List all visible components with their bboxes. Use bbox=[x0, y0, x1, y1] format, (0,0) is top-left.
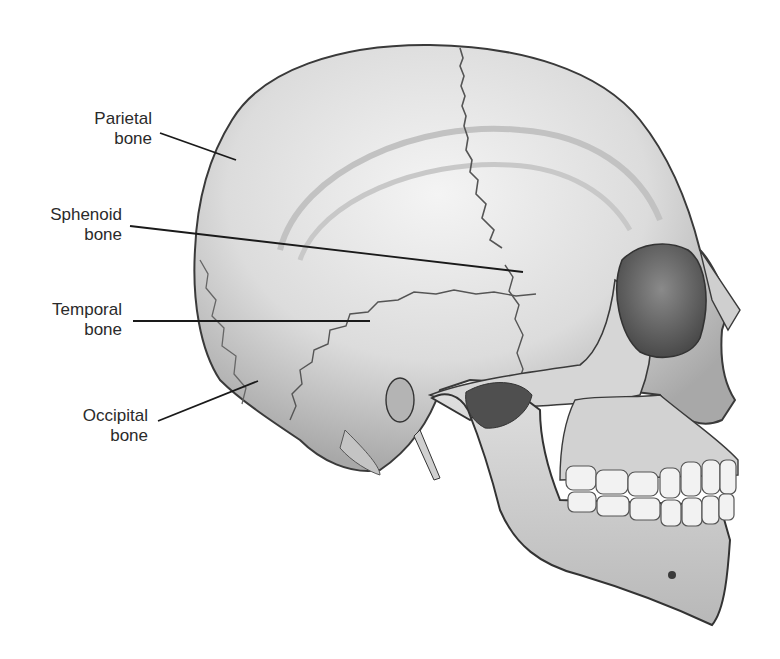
upper-tooth bbox=[720, 460, 736, 494]
label-line-2: bone bbox=[60, 129, 152, 149]
label-line-1: Temporal bbox=[26, 300, 122, 320]
label-occipital-bone: Occipital bone bbox=[52, 406, 148, 446]
mental-foramen bbox=[668, 571, 676, 579]
upper-tooth bbox=[702, 460, 720, 494]
label-line-1: Sphenoid bbox=[26, 205, 122, 225]
upper-tooth bbox=[681, 462, 701, 496]
ear-canal bbox=[386, 378, 414, 422]
label-parietal-bone: Parietal bone bbox=[60, 109, 152, 149]
lower-tooth bbox=[702, 496, 719, 524]
upper-tooth bbox=[566, 466, 596, 490]
styloid-process bbox=[414, 430, 440, 480]
label-line-1: Occipital bbox=[52, 406, 148, 426]
label-line-1: Parietal bbox=[60, 109, 152, 129]
lower-tooth bbox=[682, 498, 702, 526]
label-line-2: bone bbox=[26, 225, 122, 245]
upper-tooth bbox=[628, 472, 658, 496]
lower-tooth bbox=[597, 496, 629, 516]
upper-tooth bbox=[660, 468, 680, 498]
lower-tooth bbox=[568, 492, 596, 512]
lower-tooth bbox=[630, 498, 660, 520]
orbit bbox=[617, 244, 706, 357]
label-line-2: bone bbox=[26, 320, 122, 340]
upper-tooth bbox=[596, 470, 628, 494]
label-temporal-bone: Temporal bone bbox=[26, 300, 122, 340]
lower-tooth bbox=[719, 494, 734, 520]
label-line-2: bone bbox=[52, 426, 148, 446]
label-sphenoid-bone: Sphenoid bone bbox=[26, 205, 122, 245]
lower-tooth bbox=[661, 500, 681, 526]
